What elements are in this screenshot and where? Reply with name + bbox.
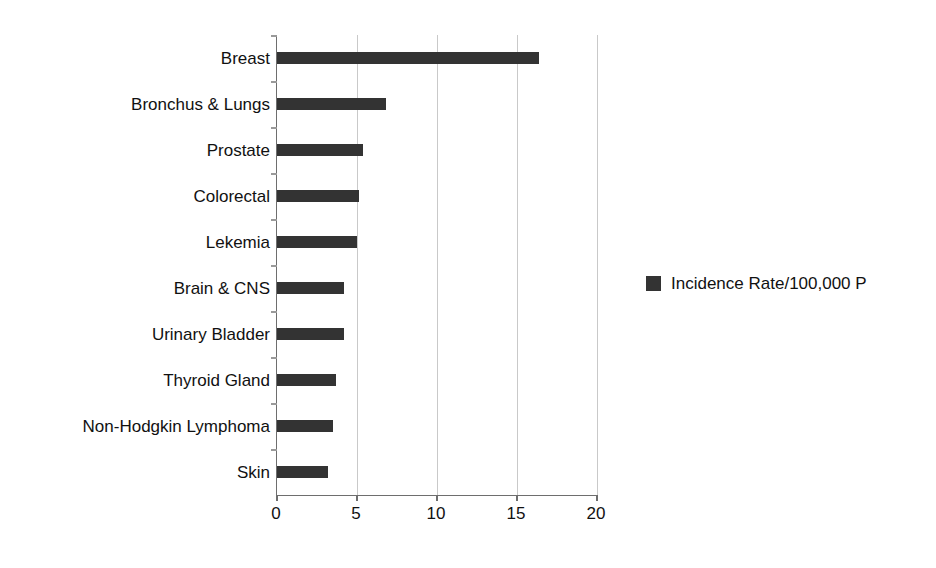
y-axis-tick xyxy=(271,403,277,405)
plot-area xyxy=(276,35,597,496)
category-label: Urinary Bladder xyxy=(152,326,270,343)
bar xyxy=(277,52,539,64)
x-axis-tick-label: 20 xyxy=(566,505,626,522)
x-axis-tick-label: 0 xyxy=(246,505,306,522)
x-axis-tick xyxy=(436,495,438,501)
chart-legend: Incidence Rate/100,000 P xyxy=(646,275,867,292)
bar xyxy=(277,420,333,432)
category-label: Breast xyxy=(221,50,270,67)
bar xyxy=(277,144,363,156)
x-axis-tick-label: 15 xyxy=(486,505,546,522)
y-axis-tick xyxy=(271,173,277,175)
y-axis-tick xyxy=(271,219,277,221)
y-axis-tick xyxy=(271,311,277,313)
y-axis-tick xyxy=(271,357,277,359)
x-axis-tick xyxy=(276,495,278,501)
category-label: Thyroid Gland xyxy=(163,372,270,389)
y-axis-tick xyxy=(271,449,277,451)
gridline xyxy=(517,35,518,495)
category-label: Brain & CNS xyxy=(174,280,270,297)
bar xyxy=(277,98,386,110)
bar xyxy=(277,190,359,202)
bar xyxy=(277,374,336,386)
category-label: Prostate xyxy=(207,142,270,159)
y-axis-tick xyxy=(271,35,277,37)
y-axis-tick xyxy=(271,127,277,129)
x-axis-tick xyxy=(516,495,518,501)
category-label: Colorectal xyxy=(193,188,270,205)
bar xyxy=(277,466,328,478)
x-axis-tick xyxy=(356,495,358,501)
y-axis-tick xyxy=(271,81,277,83)
legend-swatch-icon xyxy=(646,276,661,291)
category-label: Skin xyxy=(237,464,270,481)
x-axis-tick xyxy=(596,495,598,501)
legend-label: Incidence Rate/100,000 P xyxy=(671,275,867,292)
bar xyxy=(277,236,357,248)
y-axis-tick xyxy=(271,265,277,267)
category-label: Bronchus & Lungs xyxy=(131,96,270,113)
x-axis-tick-label: 5 xyxy=(326,505,386,522)
x-axis-tick-label: 10 xyxy=(406,505,466,522)
gridline xyxy=(597,35,598,495)
category-label: Non-Hodgkin Lymphoma xyxy=(83,418,270,435)
bar xyxy=(277,328,344,340)
gridline xyxy=(437,35,438,495)
category-label: Lekemia xyxy=(206,234,270,251)
bar-chart: BreastBronchus & LungsProstateColorectal… xyxy=(0,0,936,568)
bar xyxy=(277,282,344,294)
